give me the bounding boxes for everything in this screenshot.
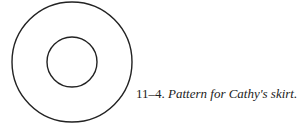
inner-circle (47, 37, 97, 87)
figure-caption: 11–4. Pattern for Cathy's skirt. (136, 86, 297, 102)
caption-text: Pattern for Cathy's skirt. (168, 86, 297, 101)
skirt-pattern-diagram (0, 0, 301, 133)
outer-circle (12, 2, 132, 122)
caption-number: 11–4. (136, 86, 165, 101)
